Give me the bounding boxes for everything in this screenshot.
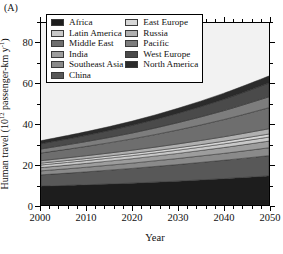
y-tick-minor [37,22,40,23]
legend-swatch-west-europe [125,51,138,58]
legend-label-china: China [68,70,124,81]
legend-swatch-middle-east [51,40,64,47]
y-tick-minor-right [270,145,273,146]
y-tick-label-80: 80 [23,37,34,48]
y-tick-minor-right [270,22,273,23]
x-tick-label-2040: 2040 [214,212,235,223]
legend-swatch-latin-america [51,30,64,37]
legend-swatch-pacific [125,40,138,47]
x-tick-minor [160,206,161,209]
legend-swatch-cell [50,38,68,49]
legend-swatch-china [51,72,64,79]
x-tick-minor [196,206,197,209]
x-tick-minor [58,206,59,209]
x-tick-major [224,206,225,211]
x-axis-title: Year [40,232,270,243]
legend-swatch-cell [50,59,68,70]
y-tick-major [35,83,40,84]
legend-swatch-cell [50,70,68,81]
chart-legend: AfricaEast EuropeLatin AmericaRussiaMidd… [46,14,203,83]
y-tick-minor [37,186,40,187]
y-tick-major [35,165,40,166]
legend-row: Middle EastPacific [50,38,199,49]
y-axis-title: Human travel (1012 passenger-km y-1) [0,22,10,206]
y-tick-label-60: 60 [23,78,34,89]
x-tick-minor-top [242,19,243,22]
legend-label-middle-east: Middle East [68,38,124,49]
y-tick-minor [37,104,40,105]
y-tick-major [35,124,40,125]
legend-swatch-cell [124,59,142,70]
y-tick-minor-right [270,104,273,105]
y-tick-minor [37,63,40,64]
legend-label-southeast-asia: Southeast Asia [68,59,124,70]
x-tick-minor [242,206,243,209]
legend-swatch-africa [51,19,64,26]
x-tick-minor [261,206,262,209]
x-tick-minor-top [252,19,253,22]
legend-swatch-cell [50,49,68,60]
legend-label-russia: Russia [142,28,199,39]
x-tick-minor-top [261,19,262,22]
x-tick-minor [169,206,170,209]
legend-label-west-europe: West Europe [142,49,199,60]
legend-row: China [50,70,199,81]
x-tick-major [132,206,133,211]
x-tick-minor [141,206,142,209]
y-tick-minor-right [270,63,273,64]
legend-swatch-russia [125,30,138,37]
legend-swatch-cell [124,28,142,39]
legend-swatch-cell [124,38,142,49]
legend-table: AfricaEast EuropeLatin AmericaRussiaMidd… [50,17,199,80]
x-tick-major [40,206,41,211]
y-tick-major [35,42,40,43]
panel-label: (A) [4,2,18,13]
x-tick-major [86,206,87,211]
x-tick-minor [233,206,234,209]
x-tick-minor [114,206,115,209]
legend-label-africa: Africa [68,17,124,28]
legend-label-north-america: North America [142,59,199,70]
x-tick-label-2000: 2000 [30,212,51,223]
x-tick-minor [95,206,96,209]
y-tick-major-right [270,165,275,166]
x-tick-label-2030: 2030 [168,212,189,223]
y-tick-label-40: 40 [23,119,34,130]
x-tick-minor [206,206,207,209]
legend-row: IndiaWest Europe [50,49,199,60]
legend-swatch-north-america [125,61,138,68]
legend-label-latin-america: Latin America [68,28,124,39]
x-tick-label-2020: 2020 [122,212,143,223]
figure-panel: (A) Human travel (1012 passenger-km y-1)… [0,0,283,254]
legend-swatch-cell [124,49,142,60]
legend-label-east-europe: East Europe [142,17,199,28]
x-tick-major-top [270,17,271,22]
y-tick-label-0: 0 [28,201,33,212]
legend-swatch-india [51,51,64,58]
x-tick-major-top [40,17,41,22]
x-tick-minor [123,206,124,209]
legend-swatch-east-europe [125,19,138,26]
legend-row: Latin AmericaRussia [50,28,199,39]
legend-swatch-southeast-asia [51,61,64,68]
legend-swatch-cell [124,17,142,28]
x-tick-minor [68,206,69,209]
x-tick-minor [187,206,188,209]
y-tick-major-right [270,83,275,84]
legend-swatch-cell [50,17,68,28]
legend-swatch-cell-empty [124,70,142,81]
legend-swatch-cell [50,28,68,39]
x-tick-minor [252,206,253,209]
x-tick-major [178,206,179,211]
legend-row: AfricaEast Europe [50,17,199,28]
x-tick-minor [104,206,105,209]
x-tick-label-2050: 2050 [260,212,281,223]
x-tick-major [270,206,271,211]
x-tick-minor-top [215,19,216,22]
y-tick-minor-right [270,186,273,187]
legend-label-india: India [68,49,124,60]
x-tick-minor [77,206,78,209]
x-tick-minor [215,206,216,209]
y-tick-minor [37,145,40,146]
y-tick-major-right [270,42,275,43]
